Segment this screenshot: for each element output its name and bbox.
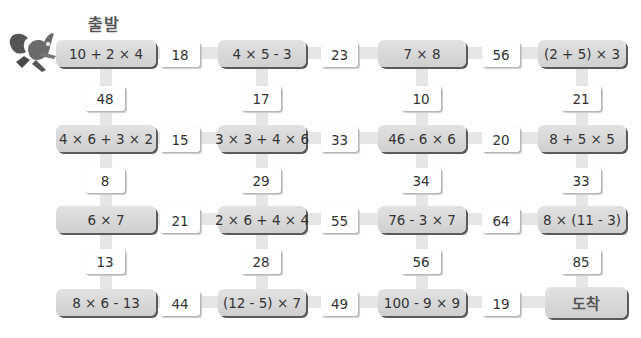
answer-cell[interactable]: 56 <box>482 42 520 67</box>
expression-cell[interactable]: 8 × (11 - 3) <box>538 206 626 233</box>
answer-cell[interactable]: 33 <box>321 127 358 152</box>
answer-cell[interactable]: 18 <box>160 42 200 67</box>
answer-cell[interactable]: 8 <box>85 168 125 193</box>
expression-cell[interactable]: 7 × 8 <box>378 40 466 67</box>
answer-cell[interactable]: 28 <box>241 249 281 274</box>
answer-cell[interactable]: 21 <box>160 208 200 233</box>
expression-cell[interactable]: 76 - 3 × 7 <box>378 206 466 233</box>
expression-cell[interactable]: 8 + 5 × 5 <box>538 125 626 152</box>
expression-cell[interactable]: 100 - 9 × 9 <box>378 289 466 316</box>
answer-cell[interactable]: 56 <box>401 249 441 274</box>
expression-cell[interactable]: 6 × 7 <box>56 206 156 233</box>
expression-cell[interactable]: 10 + 2 × 4 <box>56 40 156 67</box>
answer-cell[interactable]: 33 <box>561 168 601 193</box>
expression-cell[interactable]: 4 × 5 - 3 <box>218 40 306 67</box>
answer-cell[interactable]: 44 <box>160 291 200 316</box>
answer-cell[interactable]: 13 <box>85 249 125 274</box>
answer-cell[interactable]: 55 <box>321 208 358 233</box>
answer-cell[interactable]: 15 <box>160 127 200 152</box>
answer-cell[interactable]: 29 <box>241 168 281 193</box>
answer-cell[interactable]: 19 <box>482 291 520 316</box>
answer-cell[interactable]: 10 <box>401 86 441 111</box>
expression-cell[interactable]: 2 × 6 + 4 × 4 <box>218 206 306 233</box>
answer-cell[interactable]: 34 <box>401 168 441 193</box>
answer-cell[interactable]: 21 <box>561 86 601 111</box>
answer-cell[interactable]: 17 <box>241 86 281 111</box>
answer-cell[interactable]: 49 <box>321 291 358 316</box>
expression-cell[interactable]: 4 × 6 + 3 × 2 <box>56 125 156 152</box>
answer-cell[interactable]: 20 <box>482 127 520 152</box>
answer-cell[interactable]: 64 <box>482 208 520 233</box>
start-label: 출발 <box>88 11 120 35</box>
answer-cell[interactable]: 48 <box>85 86 125 111</box>
expression-cell[interactable]: 46 - 6 × 6 <box>378 125 466 152</box>
answer-cell[interactable]: 85 <box>561 249 601 274</box>
expression-cell[interactable]: 8 × 6 - 13 <box>56 289 156 316</box>
expression-cell[interactable]: (2 + 5) × 3 <box>538 40 626 67</box>
answer-cell[interactable]: 23 <box>321 42 358 67</box>
expression-cell[interactable]: (12 - 5) × 7 <box>218 289 306 316</box>
goal-cell[interactable]: 도착 <box>545 287 627 318</box>
expression-cell[interactable]: 3 × 3 + 4 × 6 <box>218 125 306 152</box>
